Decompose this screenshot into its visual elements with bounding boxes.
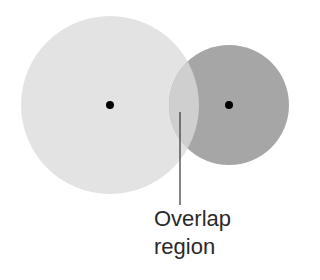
large-circle-center-dot [106,101,114,109]
overlap-label-line2: region [154,234,215,260]
overlap-label-line1: Overlap [154,206,231,232]
small-circle-center-dot [225,101,233,109]
